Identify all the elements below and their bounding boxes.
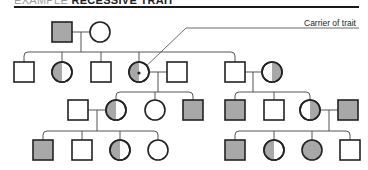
gen2-female-carrier bbox=[52, 62, 72, 82]
gen3-female-carrier bbox=[106, 100, 126, 120]
gen3-female-carrier-2 bbox=[300, 100, 320, 120]
gen4-male-unaffected bbox=[72, 140, 92, 160]
gen3-spouse-male bbox=[68, 100, 88, 120]
gen4-female-carrier-2 bbox=[264, 140, 284, 160]
gen3-male-affected bbox=[183, 100, 203, 120]
gen2-male-unaffected-2 bbox=[91, 62, 111, 82]
gen2-spouse-female-carrier bbox=[262, 62, 282, 82]
gen2-spouse-male bbox=[167, 62, 187, 82]
annotation-pointer-dot bbox=[137, 71, 140, 74]
gen3-male-unaffected bbox=[264, 100, 284, 120]
gen4-male-unaffected-2 bbox=[340, 140, 360, 160]
gen3-male-affected-2 bbox=[225, 100, 245, 120]
connector-lines bbox=[24, 32, 350, 140]
gen4-female-affected bbox=[302, 140, 322, 160]
gen1-female-unaffected bbox=[90, 22, 110, 42]
gen3-spouse-male-affected bbox=[338, 100, 358, 120]
gen2-male-unaffected bbox=[14, 62, 34, 82]
gen4-female-unaffected bbox=[148, 140, 168, 160]
gen2-male-unaffected-3 bbox=[225, 62, 245, 82]
gen1-male-affected bbox=[52, 22, 72, 42]
gen4-male-affected bbox=[33, 140, 53, 160]
pedigree-chart bbox=[0, 0, 368, 170]
gen4-female-carrier bbox=[110, 140, 130, 160]
gen3-female-unaffected bbox=[145, 100, 165, 120]
gen4-male-affected-2 bbox=[225, 140, 245, 160]
